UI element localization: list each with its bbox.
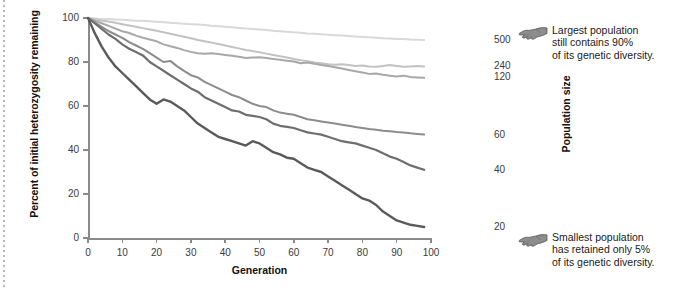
chart-figure: Percent of initial heterozygosity remain… <box>0 0 684 288</box>
annotation-text: Smallest population has retained only 5%… <box>552 231 655 268</box>
annotation-largest-population: Largest population still contains 90% of… <box>518 24 655 61</box>
annotation-text: Largest population still contains 90% of… <box>552 24 655 61</box>
series-line-40 <box>88 18 424 170</box>
right-axis-title: Population size <box>560 54 572 174</box>
population-size-label-500: 500 <box>494 34 511 45</box>
pointing-hand-left-icon <box>518 232 548 250</box>
population-size-label-40: 40 <box>494 164 505 175</box>
population-size-label-240: 240 <box>494 60 511 71</box>
population-size-label-60: 60 <box>494 129 505 140</box>
series-line-20 <box>88 18 424 227</box>
population-size-label-120: 120 <box>494 71 511 82</box>
series-line-240 <box>88 18 424 67</box>
pointing-hand-left-icon <box>518 25 548 43</box>
population-size-label-20: 20 <box>494 221 505 232</box>
annotation-smallest-population: Smallest population has retained only 5%… <box>518 231 655 268</box>
